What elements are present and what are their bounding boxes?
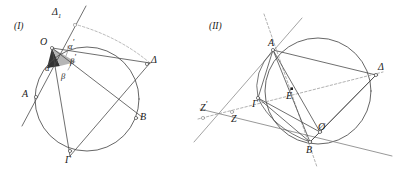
- panel-ii-graphics: [194, 14, 392, 167]
- label-delta-ii: Δ: [378, 62, 384, 72]
- line-through-a-lower-left: [194, 18, 302, 142]
- geometry-figure: (I) Δ1 O α' β' α β A B Γ Δ (II) A B Γ Δ …: [0, 0, 407, 174]
- chord-a-delta: [273, 50, 376, 75]
- label-o-ii: Ø: [318, 122, 325, 132]
- label-alpha-prime: α': [68, 39, 74, 50]
- label-z: Z: [231, 114, 237, 124]
- label-z-prime-mark: ': [206, 100, 208, 109]
- label-beta-prime: β': [70, 54, 76, 65]
- label-a: A: [22, 89, 28, 99]
- vertex-marker-delta: [145, 62, 148, 65]
- vertex-marker-zprime: [201, 116, 204, 119]
- panel-ii-caption: (II): [209, 22, 222, 32]
- geometry-canvas: [0, 0, 407, 174]
- label-a-ii: A: [268, 38, 274, 48]
- panel-i-caption: (I): [14, 22, 24, 32]
- label-delta1: Δ1: [52, 7, 61, 20]
- label-b: B: [140, 112, 146, 122]
- chord-o-delta: [320, 75, 376, 132]
- chord-o-b: [52, 48, 142, 117]
- vertex-marker-gamma: [68, 149, 71, 152]
- label-e: E: [286, 91, 292, 101]
- label-gamma: Γ: [65, 155, 71, 165]
- label-alpha: α: [45, 64, 49, 73]
- chord-b-o: [310, 132, 320, 142]
- label-alpha-prime-mark: ': [72, 38, 74, 47]
- vertex-marker-o: [50, 46, 53, 49]
- vertex-marker-delta-ii: [374, 73, 377, 76]
- label-delta: Δ: [151, 55, 157, 65]
- chord-gamma-b: [258, 98, 310, 142]
- chord-a-gamma: [258, 50, 273, 98]
- label-gamma-ii: Γ: [252, 99, 258, 109]
- label-delta1-subscript: 1: [58, 12, 61, 19]
- vertex-marker-delta1: [73, 23, 76, 26]
- vertex-marker-b: [134, 116, 137, 119]
- vertex-marker-a: [34, 95, 37, 98]
- label-o: O: [40, 37, 47, 47]
- label-beta: β: [61, 72, 65, 81]
- label-z-prime: Z': [200, 101, 207, 113]
- panel-i-graphics: [22, 6, 150, 156]
- label-beta-prime-mark: ': [74, 53, 76, 62]
- tangent-line-at-b: [200, 109, 392, 156]
- label-b-ii: B: [306, 145, 312, 155]
- vertex-marker-a-ii: [271, 48, 274, 51]
- chord-a-o: [273, 50, 320, 132]
